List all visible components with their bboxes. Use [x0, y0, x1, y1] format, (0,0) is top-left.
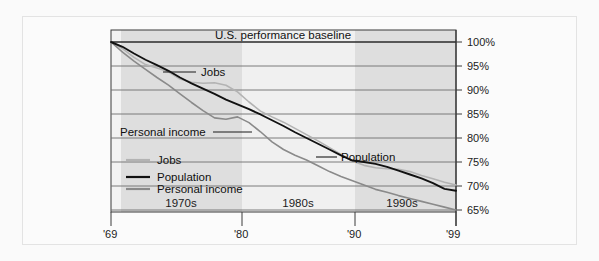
ytick-label-100: 100%: [467, 36, 495, 48]
xtick-label-90: '90: [347, 228, 361, 240]
legend-label-personal-income: Personal income: [157, 183, 243, 195]
ytick-label-70: 70%: [467, 180, 489, 192]
callout-population-label: Population: [341, 151, 395, 163]
ytick-label-65: 65%: [467, 204, 489, 216]
performance-baseline-chart: 100% 95% 90% 85% 80% 75% 70% 65% '69 '80…: [0, 0, 599, 261]
y-axis-tick-labels: 100% 95% 90% 85% 80% 75% 70% 65%: [467, 36, 495, 216]
x-axis-tick-labels: '69 '80 '90 '99: [103, 228, 460, 240]
callout-jobs-label: Jobs: [201, 66, 226, 78]
decade-band-1980s: [242, 30, 355, 212]
xtick-label-99: '99: [446, 228, 460, 240]
ytick-label-75: 75%: [467, 156, 489, 168]
legend-label-population: Population: [157, 171, 211, 183]
baseline-title: U.S. performance baseline: [215, 29, 351, 41]
decade-label-1970s: 1970s: [165, 197, 197, 209]
xtick-label-69: '69: [103, 228, 117, 240]
legend-label-jobs: Jobs: [157, 154, 182, 166]
y-axis-ticks: [456, 42, 462, 210]
decade-label-1980s: 1980s: [282, 197, 314, 209]
ytick-label-85: 85%: [467, 108, 489, 120]
ytick-label-90: 90%: [467, 84, 489, 96]
decade-band-1990s: [355, 30, 456, 212]
xtick-label-80: '80: [234, 228, 248, 240]
chart-page: 100% 95% 90% 85% 80% 75% 70% 65% '69 '80…: [0, 0, 599, 261]
ytick-label-95: 95%: [467, 60, 489, 72]
ytick-label-80: 80%: [467, 132, 489, 144]
x-axis-ticks: [111, 212, 456, 226]
callout-personal-income-label: Personal income: [120, 126, 206, 138]
